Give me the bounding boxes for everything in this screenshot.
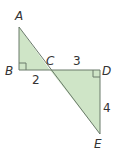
point-label-b: B (5, 64, 13, 78)
point-label-d: D (102, 64, 111, 78)
point-label-a: A (14, 9, 23, 23)
length-label-cd: 3 (73, 54, 81, 68)
length-label-bc: 2 (32, 73, 40, 87)
geometry-diagram: A B C D E 2 3 4 (0, 0, 115, 156)
point-label-e: E (94, 137, 102, 151)
point-label-c: C (46, 54, 55, 68)
length-label-de: 4 (103, 101, 111, 115)
